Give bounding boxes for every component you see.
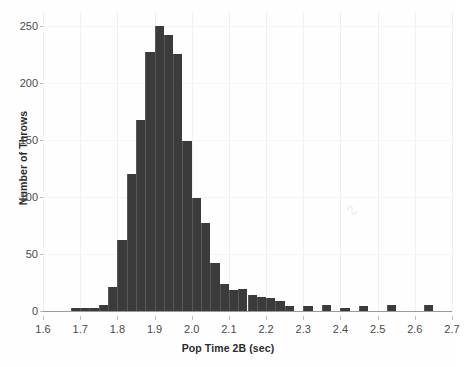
x-tick-label: 1.9 xyxy=(135,323,175,335)
x-tick-mark xyxy=(415,316,416,320)
y-tick-label: 0 xyxy=(4,305,38,317)
y-tick-label: 150 xyxy=(4,134,38,146)
gridline-vertical xyxy=(43,12,44,311)
x-tick-label: 2.1 xyxy=(209,323,249,335)
x-tick-label: 1.8 xyxy=(97,323,137,335)
x-tick-mark xyxy=(117,316,118,320)
gridline-horizontal xyxy=(43,83,452,84)
y-tick-label: 50 xyxy=(4,248,38,260)
y-tick-label: 100 xyxy=(4,191,38,203)
x-tick-mark xyxy=(229,316,230,320)
x-tick-label: 2.3 xyxy=(283,323,323,335)
histogram-bar xyxy=(164,35,173,311)
gridline-vertical xyxy=(415,12,416,311)
histogram-bar xyxy=(248,295,257,311)
x-tick-mark xyxy=(43,316,44,320)
gridline-vertical xyxy=(80,12,81,311)
x-tick-mark xyxy=(378,316,379,320)
gridline-horizontal xyxy=(43,140,452,141)
y-tick-label: 200 xyxy=(4,77,38,89)
histogram-bar xyxy=(145,52,154,311)
x-axis-title: Pop Time 2B (sec) xyxy=(0,342,456,354)
histogram-bar xyxy=(117,240,126,311)
gridline-vertical xyxy=(229,12,230,311)
gridline-vertical xyxy=(266,12,267,311)
plot-area xyxy=(43,12,452,311)
gridline-vertical xyxy=(303,12,304,311)
gridline-horizontal xyxy=(43,197,452,198)
histogram-bar xyxy=(136,120,145,311)
x-tick-label: 1.7 xyxy=(60,323,100,335)
gridline-vertical xyxy=(452,12,453,311)
x-axis-line xyxy=(43,311,452,312)
y-axis-ticks: 050100150200250 xyxy=(0,0,38,367)
histogram-bar xyxy=(127,174,136,311)
gridline-vertical xyxy=(340,12,341,311)
gridline-horizontal xyxy=(43,26,452,27)
histogram-bar xyxy=(275,301,284,311)
x-tick-mark xyxy=(80,316,81,320)
x-tick-mark xyxy=(266,316,267,320)
x-tick-label: 2.4 xyxy=(320,323,360,335)
histogram-bar xyxy=(192,198,201,311)
histogram-bar xyxy=(108,287,117,311)
x-tick-label: 2.0 xyxy=(172,323,212,335)
x-tick-mark xyxy=(192,316,193,320)
x-tick-label: 2.5 xyxy=(358,323,398,335)
histogram-bar xyxy=(220,284,229,311)
x-tick-mark xyxy=(303,316,304,320)
histogram-bar xyxy=(201,223,210,311)
gridline-vertical xyxy=(378,12,379,311)
histogram-bar xyxy=(210,263,219,311)
x-tick-mark xyxy=(340,316,341,320)
x-tick-label: 2.2 xyxy=(246,323,286,335)
histogram-bar xyxy=(182,141,191,311)
x-axis-ticks: 1.61.71.81.92.02.12.22.32.42.52.62.7 xyxy=(43,316,452,338)
x-tick-label: 2.7 xyxy=(432,323,464,335)
histogram-bar xyxy=(155,26,164,311)
y-tick-label: 250 xyxy=(4,20,38,32)
histogram-bar xyxy=(238,289,247,311)
x-tick-mark xyxy=(155,316,156,320)
x-tick-label: 1.6 xyxy=(23,323,63,335)
x-tick-label: 2.6 xyxy=(395,323,435,335)
histogram-bar xyxy=(173,54,182,311)
histogram-bar xyxy=(229,290,238,311)
histogram-bar xyxy=(257,297,266,311)
histogram-bar xyxy=(266,298,275,311)
gridline-horizontal xyxy=(43,254,452,255)
x-tick-mark xyxy=(452,316,453,320)
